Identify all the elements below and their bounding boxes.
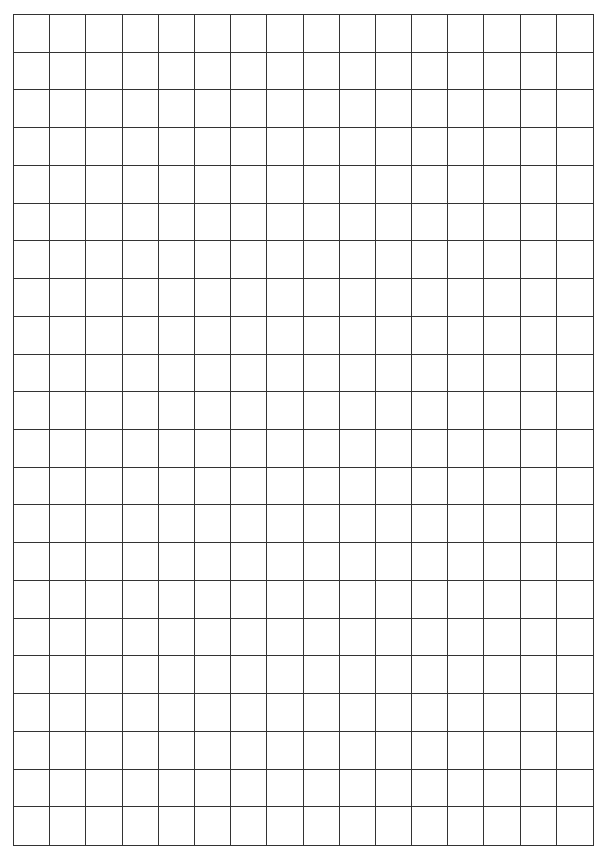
grid-cell	[123, 656, 159, 694]
grid-cell	[521, 279, 557, 317]
grid-cell	[521, 505, 557, 543]
grid-cell	[267, 128, 303, 166]
grid-cell	[267, 392, 303, 430]
grid-cell	[159, 392, 195, 430]
grid-cell	[304, 15, 340, 53]
grid-cell	[231, 770, 267, 808]
grid-cell	[267, 204, 303, 242]
grid-cell	[123, 543, 159, 581]
grid-cell	[521, 128, 557, 166]
grid-cell	[159, 317, 195, 355]
grid-cell	[521, 770, 557, 808]
grid-cell	[86, 656, 122, 694]
grid-cell	[86, 317, 122, 355]
grid-cell	[340, 656, 376, 694]
grid-cell	[159, 355, 195, 393]
grid-cell	[412, 505, 448, 543]
grid-cell	[340, 430, 376, 468]
grid-cell	[448, 732, 484, 770]
grid-cell	[267, 317, 303, 355]
grid-cell	[159, 53, 195, 91]
grid-cell	[86, 505, 122, 543]
grid-cell	[267, 807, 303, 845]
grid-cell	[304, 732, 340, 770]
grid-cell	[50, 355, 86, 393]
grid-cell	[231, 430, 267, 468]
grid-cell	[521, 807, 557, 845]
grid-cell	[195, 241, 231, 279]
grid-cell	[521, 430, 557, 468]
grid-cell	[14, 53, 50, 91]
grid-cell	[14, 581, 50, 619]
grid-cell	[123, 732, 159, 770]
grid-cell	[376, 15, 412, 53]
grid-cell	[267, 732, 303, 770]
grid-cell	[267, 505, 303, 543]
grid-cell	[159, 694, 195, 732]
grid-cell	[557, 241, 593, 279]
grid-cell	[304, 770, 340, 808]
grid-cell	[159, 770, 195, 808]
grid-cell	[448, 90, 484, 128]
grid-cell	[340, 90, 376, 128]
grid-cell	[195, 53, 231, 91]
grid-cell	[304, 90, 340, 128]
grid-cell	[14, 468, 50, 506]
grid-cell	[123, 355, 159, 393]
grid-cell	[376, 90, 412, 128]
grid-cell	[557, 807, 593, 845]
grid-cell	[86, 619, 122, 657]
grid-cell	[231, 15, 267, 53]
grid-cell	[50, 656, 86, 694]
grid-cell	[557, 732, 593, 770]
grid-cell	[14, 15, 50, 53]
grid-cell	[304, 656, 340, 694]
grid-cell	[521, 317, 557, 355]
grid-cell	[231, 732, 267, 770]
grid-cell	[50, 317, 86, 355]
grid-cell	[123, 128, 159, 166]
grid-cell	[14, 430, 50, 468]
grid-cell	[195, 656, 231, 694]
grid-cell	[304, 543, 340, 581]
grid-cell	[484, 694, 520, 732]
grid-cell	[484, 656, 520, 694]
grid-cell	[195, 694, 231, 732]
grid-cell	[484, 166, 520, 204]
grid-cell	[376, 807, 412, 845]
grid-cell	[14, 355, 50, 393]
grid-cell	[412, 204, 448, 242]
grid-cell	[521, 619, 557, 657]
grid-cell	[484, 90, 520, 128]
grid-cell	[267, 543, 303, 581]
grid-cell	[267, 694, 303, 732]
grid-cell	[376, 166, 412, 204]
grid-cell	[86, 90, 122, 128]
grid-cell	[123, 770, 159, 808]
grid-cell	[340, 505, 376, 543]
grid-cell	[484, 430, 520, 468]
grid-cell	[123, 90, 159, 128]
grid-cell	[231, 204, 267, 242]
grid-cell	[557, 468, 593, 506]
grid-cell	[484, 204, 520, 242]
grid-cell	[376, 279, 412, 317]
grid-cell	[557, 279, 593, 317]
grid-cell	[484, 241, 520, 279]
grid-cell	[195, 90, 231, 128]
grid-cell	[304, 355, 340, 393]
grid-cell	[412, 241, 448, 279]
grid-cell	[448, 770, 484, 808]
grid-cell	[267, 770, 303, 808]
grid-cell	[195, 15, 231, 53]
grid-cell	[448, 15, 484, 53]
grid-cell	[267, 430, 303, 468]
grid-cell	[50, 166, 86, 204]
grid-cell	[484, 543, 520, 581]
grid-cell	[123, 505, 159, 543]
grid-cell	[340, 694, 376, 732]
grid-cell	[521, 355, 557, 393]
grid-cell	[412, 355, 448, 393]
grid-cell	[340, 355, 376, 393]
grid-cell	[86, 694, 122, 732]
